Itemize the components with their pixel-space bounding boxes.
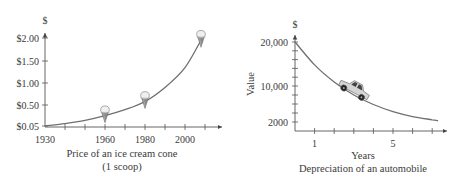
car-icon bbox=[337, 75, 372, 103]
right-y-tick-label: 2000 bbox=[268, 117, 288, 128]
car-depreciation-chart: $ Value 200010,00020,000 15 Years Deprec… bbox=[245, 19, 447, 174]
left-y-unit-label: $ bbox=[43, 15, 48, 26]
charts-canvas: $ $0.05$0.50$1.00$1.50$2.00 193019601980… bbox=[0, 0, 457, 185]
right-y-unit-label: $ bbox=[293, 19, 298, 30]
left-y-tick-label: $1.50 bbox=[17, 56, 40, 67]
left-y-tick-label: $1.00 bbox=[17, 78, 40, 89]
right-x-axis-title: Years bbox=[351, 150, 374, 161]
right-x-tick-label: 5 bbox=[391, 138, 396, 149]
left-chart-subtitle: (1 scoop) bbox=[102, 161, 142, 173]
left-y-tick-label: $0.50 bbox=[17, 100, 40, 111]
price-curve bbox=[45, 40, 201, 126]
ice-cream-price-chart: $ $0.05$0.50$1.00$1.50$2.00 193019601980… bbox=[17, 15, 223, 173]
right-x-tick-label: 1 bbox=[312, 138, 317, 149]
left-y-tick-label: $0.05 bbox=[17, 121, 40, 132]
right-y-tick-label: 20,000 bbox=[261, 37, 289, 48]
left-x-tick-label: 1960 bbox=[95, 134, 115, 145]
left-x-tick-label: 2000 bbox=[175, 134, 195, 145]
right-y-tick-label: 10,000 bbox=[261, 81, 289, 92]
left-x-tick-label: 1930 bbox=[35, 134, 55, 145]
right-y-axis-title: Value bbox=[245, 72, 256, 96]
right-chart-title: Depreciation of an automobile bbox=[299, 163, 427, 174]
left-y-tick-label: $2.00 bbox=[17, 33, 40, 44]
value-curve bbox=[295, 42, 438, 121]
left-x-tick-label: 1980 bbox=[135, 134, 155, 145]
left-chart-title: Price of an ice cream cone bbox=[66, 148, 177, 159]
